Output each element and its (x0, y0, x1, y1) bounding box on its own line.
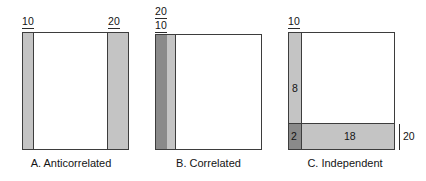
panel-b-label-bottom-text: 10 (155, 19, 167, 31)
panel-c-caption: C. Independent (275, 157, 415, 170)
panel-c-label-top: 10 (288, 16, 300, 29)
panel-c-bottom-row (289, 123, 394, 149)
panel-correlated: 20 10 B. Correlated (142, 0, 275, 181)
panel-b-caption: B. Correlated (142, 157, 275, 170)
panel-a-label-right-text: 20 (108, 15, 120, 27)
panel-a-label-right: 20 (108, 16, 120, 29)
panel-independent: 10 8 2 18 20 C. Independent (275, 0, 426, 181)
panel-b-label-top-text: 20 (155, 5, 167, 17)
figure-canvas: 10 20 A. Anticorrelated 20 10 B. Correla… (0, 0, 426, 181)
panel-b-label-top: 20 (155, 6, 167, 19)
panel-b-light-band (167, 35, 176, 149)
panel-c-label-left-column: 8 (292, 83, 298, 94)
panel-b-label-bottom: 10 (155, 20, 167, 33)
panel-b-dark-band (156, 35, 167, 149)
panel-c-label-bottom-row: 18 (344, 131, 356, 142)
panel-c-side-tick (399, 124, 400, 150)
panel-a-label-left-text: 10 (22, 15, 34, 27)
panel-a-label-left-rule (22, 28, 34, 29)
panel-c-label-top-text: 10 (288, 15, 300, 27)
panel-b-label-bottom-rule (155, 32, 167, 33)
panel-a-right-band (107, 33, 128, 149)
panel-b-box (155, 34, 262, 150)
panel-a-box (22, 32, 129, 150)
panel-a-left-band (23, 33, 34, 149)
panel-a-label-right-rule (108, 28, 120, 29)
panel-c-label-top-rule (288, 28, 300, 29)
panel-c-label-right: 20 (403, 131, 415, 142)
panel-anticorrelated: 10 20 A. Anticorrelated (0, 0, 142, 181)
panel-c-label-corner: 2 (291, 131, 297, 142)
panel-a-caption: A. Anticorrelated (0, 157, 142, 170)
panel-a-label-left: 10 (22, 16, 34, 29)
panel-c-box: 8 2 18 (288, 32, 395, 150)
